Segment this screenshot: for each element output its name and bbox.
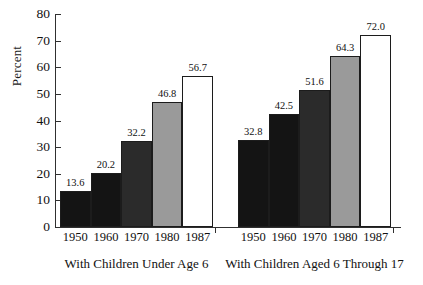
y-tick-mark xyxy=(56,227,61,228)
bar-value-label: 32.2 xyxy=(117,128,156,139)
y-tick-mark xyxy=(56,67,61,68)
y-tick-mark xyxy=(56,174,61,175)
x-tick-label: 1987 xyxy=(355,231,396,244)
y-tick-label-wrap: 50 xyxy=(24,94,50,95)
bar xyxy=(360,35,391,227)
y-tick-label-wrap: 10 xyxy=(24,200,50,201)
x-axis-end-tick xyxy=(215,228,216,233)
bar-value-label: 32.8 xyxy=(234,127,273,138)
x-tick-label: 1987 xyxy=(177,231,218,244)
y-tick-label: 60 xyxy=(26,60,50,74)
bar-value-label: 46.8 xyxy=(148,89,187,100)
y-tick-mark xyxy=(56,121,61,122)
bar-value-label: 72.0 xyxy=(356,22,395,33)
y-tick-mark xyxy=(56,94,61,95)
group-caption: With Children Aged 6 Through 17 xyxy=(208,257,421,270)
y-tick-label-wrap: 20 xyxy=(24,174,50,175)
y-tick-label-wrap: 40 xyxy=(24,121,50,122)
bar xyxy=(269,114,300,227)
y-tick-label: 50 xyxy=(26,87,50,101)
y-tick-mark xyxy=(56,147,61,148)
bar-value-label: 20.2 xyxy=(87,160,126,171)
y-tick-label: 40 xyxy=(26,114,50,128)
y-tick-label: 10 xyxy=(26,193,50,207)
bar xyxy=(152,102,183,227)
bar xyxy=(60,191,91,227)
bar-value-label: 56.7 xyxy=(178,63,217,74)
y-tick-label-wrap: 80 xyxy=(24,14,50,15)
y-tick-label: 20 xyxy=(26,167,50,181)
bar-value-label: 51.6 xyxy=(295,77,334,88)
y-tick-mark xyxy=(56,14,61,15)
y-tick-label: 0 xyxy=(26,220,50,234)
bar-value-label: 42.5 xyxy=(265,101,304,112)
y-tick-mark xyxy=(56,41,61,42)
bar-value-label: 13.6 xyxy=(56,178,95,189)
y-tick-label-wrap: 0 xyxy=(24,227,50,228)
y-tick-label-wrap: 30 xyxy=(24,147,50,148)
x-axis-line xyxy=(55,227,401,228)
bar-value-label: 64.3 xyxy=(326,43,365,54)
y-tick-label-wrap: 60 xyxy=(24,67,50,68)
y-axis-title: Percent xyxy=(9,0,25,186)
bar-chart: Percent 80706050403020100 13.620.232.246… xyxy=(0,0,423,285)
bar xyxy=(238,140,269,227)
bar xyxy=(182,76,213,227)
y-tick-label: 80 xyxy=(26,7,50,21)
bar xyxy=(91,173,122,227)
y-tick-label: 70 xyxy=(26,34,50,48)
y-tick-label-wrap: 70 xyxy=(24,41,50,42)
bar xyxy=(299,90,330,227)
x-axis-end-tick xyxy=(393,228,394,233)
bar xyxy=(330,56,361,227)
y-tick-label: 30 xyxy=(26,140,50,154)
bar xyxy=(121,141,152,227)
